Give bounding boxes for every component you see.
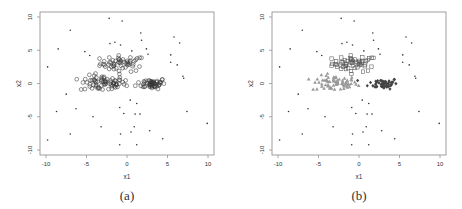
noise-point (182, 75, 184, 77)
plot-frame (272, 12, 446, 155)
cluster-point (361, 56, 364, 59)
cluster-point (340, 67, 343, 70)
noise-point (351, 144, 353, 146)
noise-point (176, 64, 178, 66)
noise-point (351, 107, 353, 109)
cluster-point (137, 81, 141, 85)
cluster-point (333, 88, 337, 91)
x-axis-label: x1 (356, 173, 363, 180)
y-tick-label: -5 (259, 113, 265, 119)
noise-point (206, 123, 208, 125)
noise-point (162, 138, 164, 140)
noise-point (179, 42, 181, 44)
cluster-point (311, 88, 315, 91)
noise-point (373, 39, 375, 41)
cluster-point (94, 72, 98, 76)
cluster-point (79, 88, 83, 92)
noise-point (411, 42, 413, 44)
noise-point (368, 144, 370, 146)
noise-point (414, 75, 416, 77)
figure: -10-50510-10-50510x1x2(a)-10-50510-10-50… (0, 0, 462, 209)
noise-point (65, 93, 67, 95)
cluster-point (313, 81, 317, 84)
noise-point (302, 30, 304, 32)
cluster-point (339, 87, 343, 90)
noise-point (146, 48, 148, 50)
cluster-point (337, 77, 341, 80)
noise-point (394, 138, 396, 140)
noise-point (438, 123, 440, 125)
x-axis-label: x1 (124, 173, 131, 180)
cluster-point (340, 61, 343, 64)
noise-point (405, 36, 407, 38)
cluster-point (366, 84, 369, 88)
noise-point (288, 111, 290, 113)
noise-point (147, 53, 149, 55)
cluster-point (356, 79, 359, 83)
noise-point (109, 43, 111, 45)
cluster-point (162, 82, 166, 86)
noise-point (363, 50, 365, 52)
noise-point (352, 133, 354, 135)
noise-point (136, 103, 138, 105)
cluster-point (134, 69, 138, 73)
noise-point (352, 44, 354, 46)
panel-b: -10-50510-10-50510x1x2(b) (247, 12, 446, 203)
y-tick-label: 5 (27, 48, 33, 52)
noise-point (418, 111, 420, 113)
noise-point (170, 54, 172, 56)
noise-point (70, 30, 72, 32)
cluster-point (128, 56, 132, 60)
y-tick-label: -10 (27, 145, 33, 154)
noise-point (365, 126, 367, 128)
y-tick-label: 10 (27, 13, 33, 20)
noise-point (297, 93, 299, 95)
noise-point (170, 61, 172, 63)
panel-a: -10-50510-10-50510x1x2(a) (15, 12, 214, 203)
noise-point (321, 55, 323, 57)
noise-point (136, 144, 138, 146)
noise-point (302, 133, 304, 135)
noise-point (56, 111, 58, 113)
noise-point (130, 131, 132, 133)
noise-point (92, 116, 94, 118)
cluster-point (320, 73, 324, 76)
noise-point (341, 43, 343, 45)
x-tick-label: 0 (125, 161, 129, 167)
cluster-point (330, 57, 333, 60)
cluster-point (307, 77, 311, 80)
noise-point (332, 126, 334, 128)
cluster-point (87, 73, 91, 77)
noise-point (100, 126, 102, 128)
noise-point (114, 41, 116, 43)
cluster-point (138, 65, 142, 69)
noise-point (149, 130, 151, 132)
panel-caption: (a) (120, 188, 134, 203)
noise-point (402, 54, 404, 56)
noise-point (279, 66, 281, 68)
cluster-point (124, 79, 128, 83)
cluster-point (366, 69, 369, 72)
noise-point (379, 53, 381, 55)
cluster-point (117, 54, 121, 58)
cluster-point (394, 82, 397, 86)
noise-point (57, 48, 59, 50)
noise-point (361, 99, 363, 101)
noise-point (173, 36, 175, 38)
x-tick-label: 5 (398, 161, 402, 167)
cluster-point (133, 84, 137, 88)
cluster-point (317, 81, 321, 84)
noise-point (279, 139, 281, 141)
cluster-point (315, 87, 319, 90)
noise-point (120, 44, 122, 46)
noise-point (47, 139, 49, 141)
x-tick-label: -10 (274, 161, 283, 167)
noise-point (119, 144, 121, 146)
noise-point (324, 116, 326, 118)
cluster-point (129, 70, 133, 74)
cluster-point (81, 81, 85, 85)
noise-point (134, 113, 136, 115)
cluster-point (369, 81, 372, 85)
cluster-point (75, 77, 79, 81)
y-tick-label: 10 (259, 13, 265, 20)
